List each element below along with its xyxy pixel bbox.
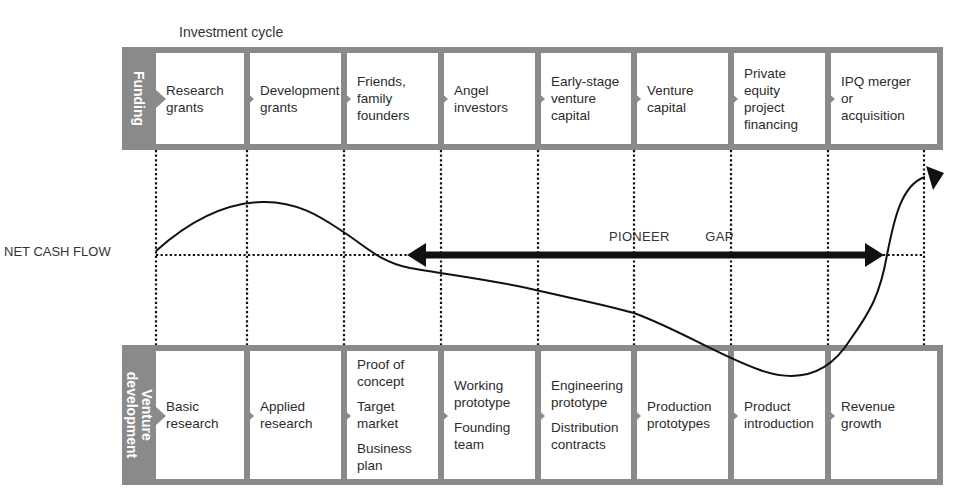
net-cash-flow-curve: [156, 177, 925, 376]
net-cash-flow-label: NET CASH FLOW: [4, 244, 111, 259]
grid-lines: [156, 150, 924, 345]
pioneer-gap-arrow: [407, 243, 884, 267]
pioneer-gap-label: PIONEER GAP: [609, 229, 734, 244]
curve-arrowhead-icon: [926, 166, 944, 190]
net-cash-flow-chart: [0, 0, 973, 498]
